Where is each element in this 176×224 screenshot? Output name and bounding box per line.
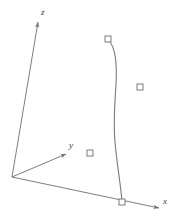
marker-middle [87, 150, 93, 156]
marker-curve-top [105, 36, 111, 42]
axis-y-line [12, 154, 66, 177]
axis-x-line [12, 177, 159, 208]
figure-vector-graphic [0, 0, 176, 224]
figure-canvas: z y x [0, 0, 176, 224]
marker-right [137, 84, 143, 90]
axis-z-line [12, 22, 38, 177]
marker-group [87, 36, 143, 205]
axis-label-z: z [41, 8, 45, 17]
axes-group [12, 22, 159, 208]
marker-curve-bottom [119, 199, 125, 205]
axis-label-x: x [163, 197, 167, 206]
curve-group [108, 39, 122, 202]
axis-label-y: y [69, 141, 73, 150]
s-curve-path [108, 39, 122, 202]
